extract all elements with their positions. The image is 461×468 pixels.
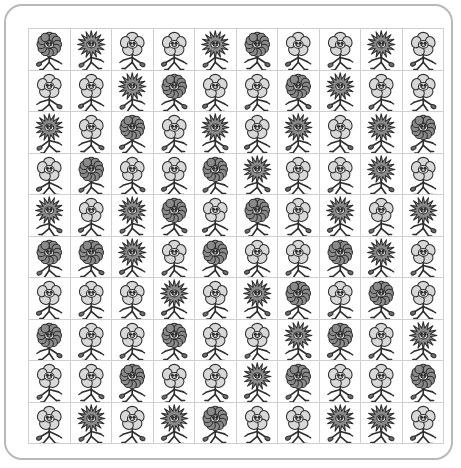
grid-cell-r4-c6[interactable] <box>237 154 279 196</box>
grid-cell-r10-c1[interactable] <box>29 403 71 445</box>
grid-cell-r3-c2[interactable] <box>71 112 113 154</box>
grid-cell-r1-c3[interactable] <box>112 29 154 71</box>
grid-cell-r2-c5[interactable] <box>195 71 237 113</box>
grid-cell-r5-c3[interactable] <box>112 195 154 237</box>
grid-cell-r3-c9[interactable] <box>361 112 403 154</box>
grid-cell-r3-c3[interactable] <box>112 112 154 154</box>
grid-cell-r1-c8[interactable] <box>320 29 362 71</box>
grid-cell-r10-c3[interactable] <box>112 403 154 445</box>
grid-cell-r10-c7[interactable] <box>278 403 320 445</box>
grid-cell-r10-c10[interactable] <box>403 403 445 445</box>
grid-cell-r6-c4[interactable] <box>154 237 196 279</box>
grid-cell-r2-c7[interactable] <box>278 71 320 113</box>
grid-cell-r5-c4[interactable] <box>154 195 196 237</box>
grid-cell-r6-c9[interactable] <box>361 237 403 279</box>
grid-cell-r9-c9[interactable] <box>361 361 403 403</box>
grid-cell-r4-c5[interactable] <box>195 154 237 196</box>
grid-cell-r2-c10[interactable] <box>403 71 445 113</box>
grid-cell-r8-c4[interactable] <box>154 320 196 362</box>
grid-cell-r4-c2[interactable] <box>71 154 113 196</box>
grid-cell-r2-c1[interactable] <box>29 71 71 113</box>
grid-cell-r10-c9[interactable] <box>361 403 403 445</box>
grid-cell-r4-c4[interactable] <box>154 154 196 196</box>
grid-cell-r3-c4[interactable] <box>154 112 196 154</box>
grid-cell-r5-c9[interactable] <box>361 195 403 237</box>
grid-cell-r5-c5[interactable] <box>195 195 237 237</box>
grid-cell-r8-c2[interactable] <box>71 320 113 362</box>
grid-cell-r8-c1[interactable] <box>29 320 71 362</box>
grid-cell-r1-c2[interactable] <box>71 29 113 71</box>
grid-cell-r6-c1[interactable] <box>29 237 71 279</box>
grid-cell-r4-c9[interactable] <box>361 154 403 196</box>
grid-cell-r4-c10[interactable] <box>403 154 445 196</box>
grid-cell-r9-c7[interactable] <box>278 361 320 403</box>
grid-cell-r7-c7[interactable] <box>278 278 320 320</box>
grid-cell-r8-c5[interactable] <box>195 320 237 362</box>
grid-cell-r8-c9[interactable] <box>361 320 403 362</box>
grid-cell-r9-c4[interactable] <box>154 361 196 403</box>
grid-cell-r2-c3[interactable] <box>112 71 154 113</box>
grid-cell-r5-c1[interactable] <box>29 195 71 237</box>
grid-cell-r1-c10[interactable] <box>403 29 445 71</box>
grid-cell-r9-c10[interactable] <box>403 361 445 403</box>
grid-cell-r2-c8[interactable] <box>320 71 362 113</box>
grid-cell-r9-c6[interactable] <box>237 361 279 403</box>
grid-cell-r8-c8[interactable] <box>320 320 362 362</box>
grid-cell-r6-c6[interactable] <box>237 237 279 279</box>
grid-cell-r9-c3[interactable] <box>112 361 154 403</box>
grid-cell-r3-c8[interactable] <box>320 112 362 154</box>
grid-cell-r10-c4[interactable] <box>154 403 196 445</box>
grid-cell-r7-c6[interactable] <box>237 278 279 320</box>
grid-cell-r1-c9[interactable] <box>361 29 403 71</box>
grid-cell-r4-c7[interactable] <box>278 154 320 196</box>
grid-cell-r3-c5[interactable] <box>195 112 237 154</box>
grid-cell-r6-c10[interactable] <box>403 237 445 279</box>
grid-cell-r7-c4[interactable] <box>154 278 196 320</box>
grid-cell-r3-c6[interactable] <box>237 112 279 154</box>
grid-cell-r8-c7[interactable] <box>278 320 320 362</box>
grid-cell-r2-c6[interactable] <box>237 71 279 113</box>
grid-cell-r7-c2[interactable] <box>71 278 113 320</box>
grid-cell-r10-c5[interactable] <box>195 403 237 445</box>
grid-cell-r10-c2[interactable] <box>71 403 113 445</box>
grid-cell-r9-c5[interactable] <box>195 361 237 403</box>
grid-cell-r4-c1[interactable] <box>29 154 71 196</box>
grid-cell-r5-c2[interactable] <box>71 195 113 237</box>
grid-cell-r7-c8[interactable] <box>320 278 362 320</box>
grid-cell-r1-c5[interactable] <box>195 29 237 71</box>
grid-cell-r3-c10[interactable] <box>403 112 445 154</box>
grid-cell-r5-c6[interactable] <box>237 195 279 237</box>
grid-cell-r1-c4[interactable] <box>154 29 196 71</box>
grid-cell-r3-c7[interactable] <box>278 112 320 154</box>
grid-cell-r6-c3[interactable] <box>112 237 154 279</box>
grid-cell-r8-c6[interactable] <box>237 320 279 362</box>
grid-cell-r1-c1[interactable] <box>29 29 71 71</box>
grid-cell-r2-c9[interactable] <box>361 71 403 113</box>
grid-cell-r2-c4[interactable] <box>154 71 196 113</box>
grid-cell-r10-c8[interactable] <box>320 403 362 445</box>
grid-cell-r8-c3[interactable] <box>112 320 154 362</box>
grid-cell-r6-c5[interactable] <box>195 237 237 279</box>
grid-cell-r4-c8[interactable] <box>320 154 362 196</box>
grid-cell-r7-c3[interactable] <box>112 278 154 320</box>
grid-cell-r1-c6[interactable] <box>237 29 279 71</box>
grid-cell-r7-c5[interactable] <box>195 278 237 320</box>
grid-cell-r2-c2[interactable] <box>71 71 113 113</box>
grid-cell-r4-c3[interactable] <box>112 154 154 196</box>
grid-cell-r7-c1[interactable] <box>29 278 71 320</box>
grid-cell-r5-c7[interactable] <box>278 195 320 237</box>
grid-cell-r7-c10[interactable] <box>403 278 445 320</box>
grid-cell-r9-c8[interactable] <box>320 361 362 403</box>
grid-cell-r5-c8[interactable] <box>320 195 362 237</box>
grid-cell-r10-c6[interactable] <box>237 403 279 445</box>
grid-cell-r7-c9[interactable] <box>361 278 403 320</box>
grid-cell-r9-c2[interactable] <box>71 361 113 403</box>
grid-cell-r1-c7[interactable] <box>278 29 320 71</box>
grid-cell-r8-c10[interactable] <box>403 320 445 362</box>
grid-cell-r6-c2[interactable] <box>71 237 113 279</box>
grid-cell-r5-c10[interactable] <box>403 195 445 237</box>
grid-cell-r6-c7[interactable] <box>278 237 320 279</box>
grid-cell-r3-c1[interactable] <box>29 112 71 154</box>
grid-cell-r6-c8[interactable] <box>320 237 362 279</box>
grid-cell-r9-c1[interactable] <box>29 361 71 403</box>
